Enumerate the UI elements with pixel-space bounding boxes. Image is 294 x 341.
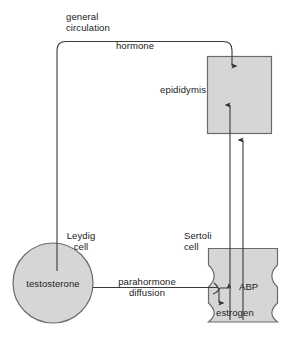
label-testosterone: testosterone bbox=[13, 278, 93, 289]
label-sertoli-cell: Sertoli cell bbox=[184, 230, 230, 252]
label-epididymis: epididymis bbox=[148, 84, 206, 95]
label-general-circulation: general circulation bbox=[66, 11, 110, 33]
label-estrogen: estrogen bbox=[216, 307, 254, 318]
epididymis-box bbox=[208, 57, 272, 134]
label-leydig-cell: Leydig cell bbox=[56, 230, 106, 252]
diagram-canvas: general circulation hormone epididymis L… bbox=[0, 0, 294, 341]
label-parahormone-diffusion: parahormone diffusion bbox=[106, 276, 188, 298]
label-abp: ABP bbox=[239, 281, 258, 292]
label-hormone: hormone bbox=[105, 40, 165, 51]
